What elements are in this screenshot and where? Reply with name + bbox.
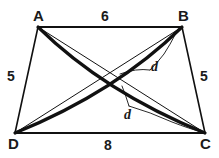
side-length-label-right: 5 — [200, 69, 208, 83]
side-length-label-top: 6 — [101, 9, 109, 23]
side-length-label-bottom: 8 — [104, 138, 112, 152]
diagonal-AC — [38, 27, 205, 133]
vertex-label-A: A — [33, 8, 44, 23]
vertex-label-B: B — [178, 8, 189, 23]
diagonal-label-lower: d — [124, 108, 131, 122]
diagonal-label-upper: d — [151, 60, 158, 74]
vertex-label-D: D — [8, 136, 19, 151]
vertex-label-C: C — [200, 136, 211, 151]
diagonal-BD — [15, 27, 182, 133]
side-AD-left — [15, 27, 38, 133]
geometry-figure: A B C D 6 8 5 5 d d — [0, 0, 219, 158]
side-length-label-left: 5 — [7, 69, 15, 83]
